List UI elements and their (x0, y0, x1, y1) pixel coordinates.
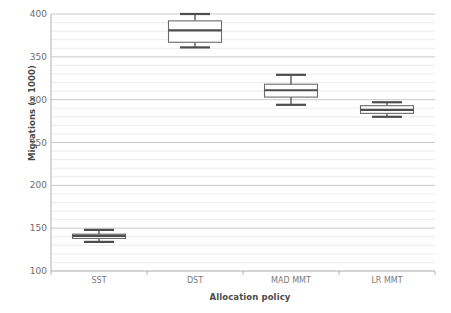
box-plot-sst (73, 230, 126, 242)
x-tick-label: DST (187, 276, 203, 285)
x-tick-label: SST (91, 276, 106, 285)
x-axis-title: Allocation policy (55, 292, 445, 302)
gridlines (51, 14, 435, 262)
x-tick-label: LR MMT (371, 276, 402, 285)
plot-canvas (0, 0, 451, 313)
box-plot-chart: Migrations (x 1000) 10015020025030035040… (0, 0, 451, 313)
x-tick-label: MAD MMT (271, 276, 311, 285)
box-plot-lr-mmt (361, 102, 414, 117)
box-iqr (169, 21, 222, 42)
box-plot-mad-mmt (265, 75, 318, 105)
box-plot-dst (169, 14, 222, 47)
